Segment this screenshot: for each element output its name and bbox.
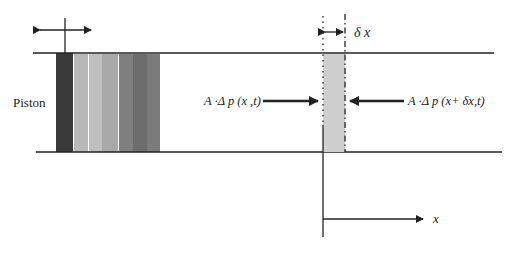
right-force-label: A ·Δ p (x+ δx,t) — [407, 94, 485, 108]
piston-bar — [74, 54, 88, 152]
piston-bar — [147, 54, 160, 152]
piston-diagram: δ x A ·Δ p (x ,t) A ·Δ p (x+ δx,t) Pisto… — [0, 0, 515, 253]
piston-bar — [119, 54, 133, 152]
piston-label: Piston — [13, 95, 46, 110]
x-axis-label: x — [432, 211, 439, 226]
piston-bar — [56, 53, 73, 152]
piston — [56, 53, 160, 152]
piston-bar — [133, 54, 147, 152]
left-force-label: A ·Δ p (x ,t) — [203, 94, 261, 108]
fluid-element — [323, 54, 345, 152]
piston-bar — [102, 54, 118, 152]
delta-x-label: δ x — [354, 25, 371, 40]
piston-bar — [89, 54, 102, 152]
piston-motion-arrow-icon — [40, 18, 91, 53]
